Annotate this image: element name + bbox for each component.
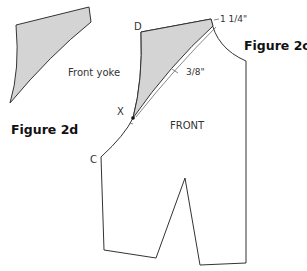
point-c-label: C [90,155,97,165]
point-x-tick [130,123,133,124]
point-x-label: X [117,107,124,117]
front-label: FRONT [170,121,204,131]
front-yoke-label: Front yoke [68,68,120,78]
front-yoke-piece [10,7,91,103]
point-x-marker [131,116,135,120]
shoulder-leader [214,19,219,20]
point-d-label: D [134,22,142,32]
offset-leader [172,69,178,73]
figure-2c-caption: Figure 2c [244,40,307,53]
figure-2d-caption: Figure 2d [11,124,78,137]
offset-measure-label: 3/8" [186,68,205,77]
shoulder-measure-label: 1 1/4" [220,15,247,24]
